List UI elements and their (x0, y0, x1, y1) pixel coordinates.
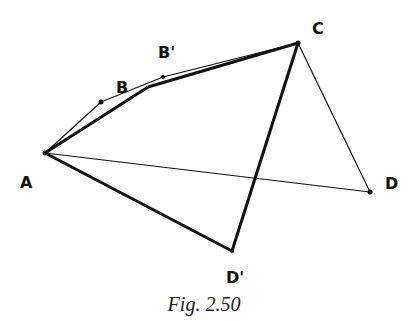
label-bprime: B' (158, 43, 175, 62)
thin-polygon (45, 43, 370, 192)
segment-a-p (45, 102, 101, 153)
segment-a-b (45, 87, 148, 153)
segment-dprime-a (45, 153, 232, 251)
point-c-dot (296, 41, 301, 46)
point-p-dot (99, 100, 104, 105)
label-dprime: D' (226, 268, 244, 287)
segment-c-d (298, 43, 370, 192)
point-d-dot (368, 190, 373, 195)
geometry-figure: A B B' C D D' (0, 0, 408, 321)
segment-c-dprime (232, 43, 298, 251)
thick-polygon (45, 43, 298, 251)
point-dprime-dot (230, 249, 234, 253)
point-bprime-dot (161, 75, 165, 79)
vertex-dots (43, 41, 373, 254)
figure-caption: Fig. 2.50 (0, 293, 408, 316)
label-d: D (385, 174, 398, 193)
label-a: A (20, 173, 33, 192)
label-b: B (116, 78, 128, 97)
point-a-dot (43, 151, 48, 156)
segment-d-a (45, 153, 370, 192)
label-c: C (312, 19, 324, 38)
